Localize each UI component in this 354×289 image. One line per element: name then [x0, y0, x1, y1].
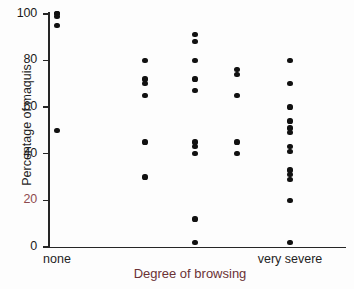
data-point: [234, 151, 239, 156]
y-tick-label: 100: [0, 7, 37, 20]
y-tick-label-wrap: 100: [0, 7, 43, 20]
data-point: [192, 144, 197, 149]
x-axis-line: [48, 247, 346, 249]
y-tick-mark: [43, 106, 48, 108]
y-tick-mark: [43, 153, 48, 155]
y-tick-mark: [43, 13, 48, 15]
data-point: [287, 58, 292, 63]
data-point: [287, 118, 292, 123]
data-point: [287, 240, 292, 245]
data-point: [142, 81, 147, 86]
y-tick-mark: [43, 246, 48, 248]
data-point: [192, 76, 197, 81]
data-point: [234, 72, 239, 77]
data-point: [192, 32, 197, 37]
y-tick-mark: [43, 60, 48, 62]
data-point: [142, 174, 147, 179]
data-point: [54, 14, 59, 19]
data-point: [234, 139, 239, 144]
data-point: [192, 88, 197, 93]
data-point: [54, 23, 59, 28]
y-tick-mark: [43, 200, 48, 202]
data-point: [142, 58, 147, 63]
data-point: [287, 177, 292, 182]
data-point: [287, 198, 292, 203]
x-axis-title: Degree of browsing: [95, 266, 285, 281]
data-point: [192, 58, 197, 63]
y-axis-line: [48, 12, 50, 248]
data-point: [142, 93, 147, 98]
data-point: [192, 151, 197, 156]
x-tick-label: none: [0, 252, 117, 266]
data-point: [192, 39, 197, 44]
x-tick-label: very severe: [230, 252, 350, 266]
data-point: [192, 240, 197, 245]
data-point: [287, 130, 292, 135]
data-point: [287, 81, 292, 86]
data-point: [234, 93, 239, 98]
data-point: [142, 139, 147, 144]
data-point: [287, 104, 292, 109]
data-point: [54, 128, 59, 133]
y-axis-title: Percentage of maquis: [20, 40, 34, 210]
scatter-plot: 020406080100 nonevery severe Percentage …: [0, 0, 354, 289]
y-tick-label: 0: [0, 240, 37, 253]
data-point: [287, 149, 292, 154]
data-point: [192, 216, 197, 221]
